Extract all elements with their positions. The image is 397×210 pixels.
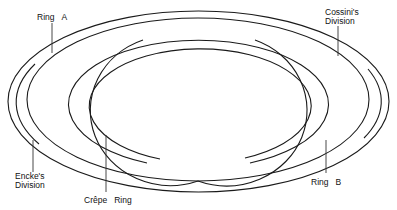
ring-a-label: RingA [37,13,67,22]
encke-division-right-arc [364,69,381,138]
ring-b-outer-edge [69,40,329,163]
crepe-ring-edge [89,49,311,159]
cassini-line2: Division [325,17,359,26]
ring-a-inner-edge [27,18,369,181]
ring-b-word1: Ring [311,177,328,187]
ring-b-word2: B [335,177,341,187]
crepe-word2: Ring [114,195,131,205]
cassini-division-label: Cossini's Division [325,8,359,26]
planet-body [90,40,307,186]
encke-division-label: Encke's Division [15,172,45,190]
encke-line2: Division [15,181,45,190]
ring-a-outer-edge [8,11,389,192]
ring-a-word2: A [61,12,67,22]
crepe-word1: Crêpe [84,195,107,205]
ring-a-word1: Ring [37,12,54,22]
crepe-ring-label: CrêpeRing [84,196,132,205]
ring-b-label: RingB [311,178,341,187]
